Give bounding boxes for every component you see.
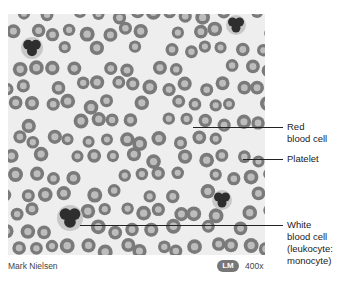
white-blood-cell-leader-line (80, 225, 283, 226)
blood-smear-image (8, 14, 265, 255)
blood-smear-micrograph (8, 14, 265, 255)
red-blood-cell-leader-line (193, 127, 283, 128)
micrograph-figure: Red blood cell Platelet White blood cell… (0, 0, 340, 281)
technique-badge: LM (217, 260, 239, 272)
platelet-label: Platelet (287, 153, 319, 165)
white-blood-cell-label: White blood cell (leukocyte: monocyte) (287, 219, 333, 267)
red-blood-cell-label: Red blood cell (287, 121, 327, 145)
photo-credit: Mark Nielsen (8, 261, 58, 271)
platelet-leader-line (243, 159, 283, 160)
magnification-label: 400x (245, 261, 263, 271)
